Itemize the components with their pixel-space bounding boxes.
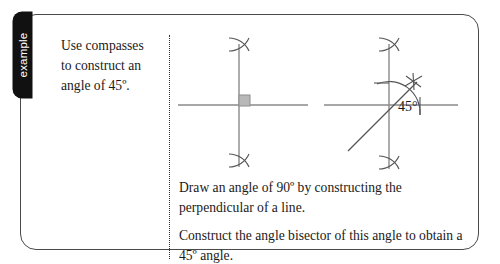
dotted-divider [169, 35, 170, 259]
prompt-line-3: angle of 45º. [61, 76, 165, 96]
figure-perpendicular-construction [178, 38, 308, 167]
construction-diagrams: 45° [171, 29, 499, 179]
instruction-step-2: Construct the angle bisector of this ang… [179, 226, 479, 264]
page-root: Use compasses to construct an angle of 4… [0, 0, 500, 264]
diagram-area: 45° [171, 29, 499, 179]
prompt-line-1: Use compasses [61, 36, 165, 56]
example-tab: example [13, 12, 32, 98]
figure-angle-bisector-construction: 45° [324, 38, 458, 169]
prompt-line-2: to construct an [61, 56, 165, 76]
instruction-step-1: Draw an angle of 90º by constructing the… [179, 178, 479, 217]
prompt-text: Use compasses to construct an angle of 4… [61, 36, 165, 96]
figure2-angle-label: 45° [398, 99, 418, 114]
example-card: Use compasses to construct an angle of 4… [20, 14, 479, 250]
example-tab-label: example [17, 33, 29, 78]
figure2-bisector-line [348, 82, 417, 151]
instructions-block: Draw an angle of 90º by constructing the… [179, 178, 479, 264]
figure1-right-angle-marker [239, 95, 250, 106]
